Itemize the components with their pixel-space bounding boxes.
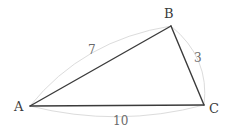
- triangle-diagram: A B C 7 3 10: [0, 0, 235, 133]
- side-label-bc: 3: [194, 51, 202, 65]
- side-label-ab: 7: [88, 43, 96, 57]
- side-label-ac: 10: [113, 114, 128, 128]
- vertex-label-c: C: [209, 101, 219, 116]
- vertex-label-b: B: [164, 6, 174, 21]
- side-bc-line: [171, 26, 204, 105]
- side-ac-line: [30, 105, 204, 106]
- side-ab-line: [30, 26, 171, 106]
- vertex-label-a: A: [13, 99, 24, 114]
